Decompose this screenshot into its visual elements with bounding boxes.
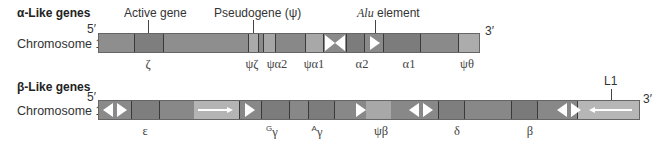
gene-label-beta-text: β [527,124,533,138]
inverted-repeat-bowtie-icon [324,34,346,52]
segment [275,34,305,52]
gene-label-alpha2: α2 [356,57,369,72]
gene-label-psi-beta: ψβ [374,124,388,139]
segment [159,101,194,119]
gene-label-psi-alpha2: ψα2 [267,57,288,72]
gene-epsilon-segment [131,101,159,119]
segment [99,34,134,52]
segment [289,101,308,119]
gene-label-epsilon-text: ε [142,124,147,138]
gene-label-epsilon: ε [142,124,147,139]
alpha-five-prime: 5′ [87,22,96,36]
alu-arrow-icon [369,35,381,51]
gene-psi-beta-segment [366,101,391,119]
beta-five-prime: 5′ [87,90,96,104]
gene-label-a-gamma-text: γ [317,125,323,139]
gene-delta-segment [438,101,464,119]
alpha-section-title: α-Like genes [17,6,90,20]
alu-rest: element [374,6,420,20]
callout-pseudogene: Pseudogene (ψ) [214,6,301,20]
gene-label-psi-zeta: ψζ [245,57,258,72]
alu-italic: Alu [357,6,374,20]
inverted-repeat-icon-mid [408,102,434,118]
gene-label-psi-theta: ψθ [460,57,474,72]
forward-arrow-icon [355,102,367,118]
gene-label-g-gamma: Gγ [266,124,278,140]
l1-forward-arrow-icon [198,106,234,114]
gene-zeta-segment [134,34,163,52]
gene-label-alpha1: α1 [403,57,416,72]
gene-label-delta-text: δ [454,124,460,138]
callout-active-gene: Active gene [124,6,187,20]
gene-label-psi-alpha1: ψα1 [304,57,325,72]
beta-section-title: β-Like genes [17,80,90,94]
callout-l1: L1 [604,74,617,88]
gene-label-g-gamma-text: γ [272,125,278,139]
gene-label-zeta: ζ [145,57,150,72]
segment [464,101,511,119]
gene-label-beta: β [527,124,533,139]
gene-beta-segment [511,101,537,119]
forward-arrow-icon [244,102,256,118]
gene-alpha1-segment [383,34,420,52]
beta-three-prime: 3′ [643,92,652,106]
inverted-repeat-icon-5prime [102,102,128,118]
segment [163,34,248,52]
gene-a-gamma-segment [308,101,334,119]
chromosome-16-label: Chromosome 16 [17,37,109,51]
gene-alpha2-segment [346,34,364,52]
gene-label-a-gamma: Aγ [312,124,323,140]
chromosome-11-label: Chromosome 11 [17,104,108,118]
gene-psi-alpha1-segment [305,34,323,52]
segment [420,34,458,52]
inverted-repeat-icon-3prime [556,102,582,118]
alpha-three-prime: 3′ [485,24,494,38]
callout-alu-element: Alu element [357,6,420,21]
gene-psi-zeta-segment [248,34,258,52]
chromosome-16-bar [98,33,480,53]
gene-label-psi-beta-text: ψβ [374,124,388,138]
gene-psi-theta-segment [458,34,480,52]
gene-label-delta: δ [454,124,460,139]
gene-g-gamma-segment [261,101,289,119]
gene-psi-alpha2-segment [263,34,275,52]
l1-reverse-arrow-icon [588,106,632,114]
